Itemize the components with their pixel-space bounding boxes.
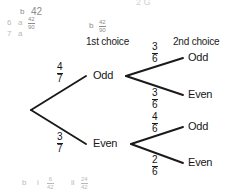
branch-denominator: 6 bbox=[152, 124, 158, 134]
bottom-note-i-fraction: 6 42 bbox=[47, 176, 54, 190]
bottom-i-numerator: 6 bbox=[47, 176, 54, 182]
branch-denominator: 7 bbox=[57, 74, 63, 84]
branch-denominator: 7 bbox=[57, 144, 63, 154]
bottom-ii-denominator: 42 bbox=[81, 184, 88, 190]
branch-denominator: 6 bbox=[152, 167, 158, 177]
branch-probability-even-even: 2 6 bbox=[152, 155, 158, 177]
bottom-ii-numerator: 24 bbox=[81, 176, 88, 182]
branch-denominator: 6 bbox=[152, 54, 158, 64]
header-second-choice: 2nd choice bbox=[173, 36, 219, 47]
branch-probability-odd-even: 3 6 bbox=[152, 88, 158, 110]
note-7-number: 7 bbox=[7, 30, 11, 38]
branch-denominator: 6 bbox=[152, 100, 158, 110]
note-b-42-label: b bbox=[20, 8, 24, 16]
node-first-choice-even: Even bbox=[93, 137, 117, 149]
note-6-part: a bbox=[18, 19, 22, 27]
leaf-odd-even: Even bbox=[188, 88, 212, 100]
note-mid-label: b bbox=[89, 22, 93, 30]
note-6-number: 6 bbox=[7, 19, 11, 27]
note-mid-fraction: 42 90 bbox=[99, 19, 106, 33]
note-mid-denominator: 90 bbox=[99, 27, 106, 33]
branch-probability-root-odd: 4 7 bbox=[57, 62, 63, 84]
clipped-top-note: 2 G bbox=[136, 0, 151, 7]
branch-numerator: 3 bbox=[152, 88, 158, 98]
note-6-numerator: 42 bbox=[28, 16, 35, 22]
node-first-choice-odd: Odd bbox=[93, 69, 113, 81]
note-6-denominator: 90 bbox=[28, 24, 35, 30]
note-6-fraction: 42 90 bbox=[28, 16, 35, 30]
branch-numerator: 3 bbox=[152, 42, 158, 52]
note-mid-numerator: 42 bbox=[99, 19, 106, 25]
branch-numerator: 3 bbox=[57, 132, 63, 142]
leaf-even-even: Even bbox=[188, 156, 212, 168]
branch-numerator: 4 bbox=[57, 62, 63, 72]
branch-numerator: 2 bbox=[152, 155, 158, 165]
leaf-even-odd: Odd bbox=[188, 120, 208, 132]
branch-probability-root-even: 3 7 bbox=[57, 132, 63, 154]
leaf-odd-odd: Odd bbox=[188, 51, 208, 63]
bottom-note-ii-fraction: 24 42 bbox=[81, 176, 88, 190]
branch-probability-even-odd: 4 6 bbox=[152, 112, 158, 134]
bottom-i-denominator: 42 bbox=[47, 184, 54, 190]
bottom-note-label: b bbox=[22, 179, 26, 187]
branch-probability-odd-odd: 3 6 bbox=[152, 42, 158, 64]
probability-tree-diagram: 2 G b 42 6 a 42 90 7 a b 42 90 1st choic… bbox=[0, 0, 229, 195]
header-first-choice: 1st choice bbox=[86, 36, 129, 47]
note-7-part: a bbox=[18, 30, 22, 38]
bottom-note-ii-label: ii bbox=[71, 179, 75, 187]
bottom-note-i-label: i bbox=[37, 179, 39, 187]
branch-numerator: 4 bbox=[152, 112, 158, 122]
